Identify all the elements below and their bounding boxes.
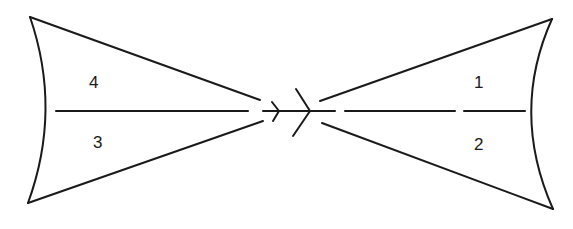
left-wedge xyxy=(28,17,263,203)
right-lower-edge xyxy=(322,123,553,209)
left-upper-edge xyxy=(30,17,260,100)
right-upper-edge xyxy=(320,19,552,101)
left-arc xyxy=(28,17,46,203)
left-lower-edge xyxy=(28,121,263,203)
region-label-1: 1 xyxy=(474,74,483,91)
region-label-3: 3 xyxy=(93,134,102,151)
right-arc xyxy=(531,19,553,209)
large-chevron-icon xyxy=(293,89,310,136)
center-arrow xyxy=(263,89,335,136)
region-label-2: 2 xyxy=(474,136,483,153)
wedge-diagram xyxy=(0,0,573,229)
diagram-canvas: 4 3 1 2 xyxy=(0,0,573,229)
region-label-4: 4 xyxy=(89,74,98,91)
right-wedge xyxy=(320,19,553,209)
